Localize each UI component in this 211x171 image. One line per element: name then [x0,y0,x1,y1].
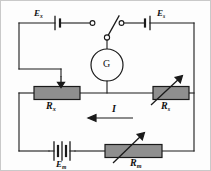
label-resistor-unknown: Rx [46,101,56,111]
label-emf-standard: Es [157,9,165,18]
resistor-rx-body [34,87,80,100]
resistor-rm-body [105,145,162,158]
switch-blade [108,16,120,37]
circuit-diagram-canvas: Ex Es Em Rx Rs Rm I G [0,0,211,171]
label-resistor-standard: Rs [161,101,170,111]
spdt-switch [104,16,119,40]
label-galvanometer: G [103,59,110,69]
label-resistor-main: Rm [130,158,142,168]
current-arrow-left [88,115,133,122]
battery-em-multicell [49,142,75,160]
terminal-es [119,21,124,26]
branch-standard-emf [119,17,194,152]
label-emf-main: Em [56,160,66,169]
label-emf-unknown: Ex [34,9,43,18]
circuit-schematic-svg [1,1,211,171]
tap-arrow-down [58,76,65,88]
label-current: I [112,104,116,114]
terminal-ex [90,21,95,26]
branch-unknown-emf [19,17,95,77]
switch-pivot [104,35,109,40]
